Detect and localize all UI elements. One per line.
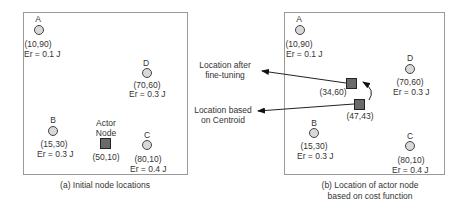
centroid-arrow — [258, 104, 354, 111]
arrows-layer — [0, 0, 465, 210]
move-arrow — [363, 82, 371, 100]
fine-tuning-arrow — [262, 71, 346, 83]
